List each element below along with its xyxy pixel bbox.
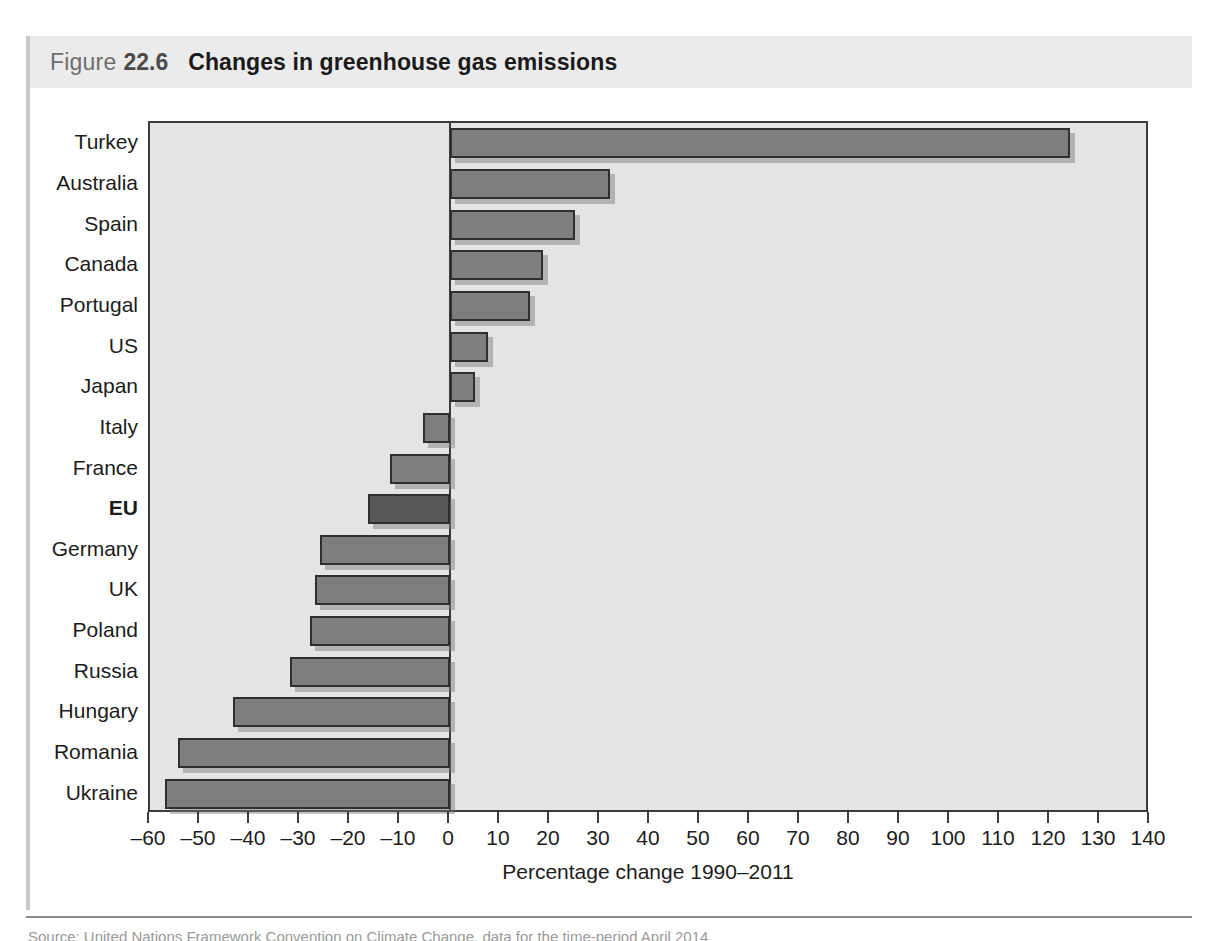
bar-australia bbox=[450, 169, 610, 199]
x-tick-label: 90 bbox=[886, 826, 909, 850]
category-label-portugal: Portugal bbox=[60, 294, 138, 315]
bar-spain bbox=[450, 210, 575, 240]
bar-france bbox=[390, 454, 450, 484]
category-label-canada: Canada bbox=[64, 253, 138, 274]
x-tick bbox=[547, 812, 549, 823]
x-tick-label: 100 bbox=[930, 826, 965, 850]
x-tick bbox=[747, 812, 749, 823]
x-tick bbox=[997, 812, 999, 823]
category-label-romania: Romania bbox=[54, 741, 138, 762]
x-tick bbox=[1147, 812, 1149, 823]
bar-romania bbox=[178, 738, 451, 768]
bar-uk bbox=[315, 575, 450, 605]
plot-box bbox=[148, 121, 1148, 812]
category-label-australia: Australia bbox=[56, 172, 138, 193]
x-tick bbox=[497, 812, 499, 823]
bar-eu bbox=[368, 494, 451, 524]
x-tick-label: –20 bbox=[330, 826, 365, 850]
bar-germany bbox=[320, 535, 450, 565]
x-tick-label: –60 bbox=[130, 826, 165, 850]
x-tick bbox=[847, 812, 849, 823]
x-tick-label: 20 bbox=[536, 826, 559, 850]
bar-hungary bbox=[233, 697, 451, 727]
category-label-france: France bbox=[73, 457, 138, 478]
bar-poland bbox=[310, 616, 450, 646]
bar-ukraine bbox=[165, 779, 450, 809]
category-label-turkey: Turkey bbox=[75, 131, 138, 152]
figure-label: Figure bbox=[50, 49, 116, 76]
x-tick-label: –50 bbox=[180, 826, 215, 850]
chart-area: TurkeyAustraliaSpainCanadaPortugalUSJapa… bbox=[26, 88, 1192, 910]
x-tick bbox=[947, 812, 949, 823]
x-tick-label: 140 bbox=[1130, 826, 1165, 850]
x-tick-label: –30 bbox=[280, 826, 315, 850]
x-axis-title: Percentage change 1990–2011 bbox=[148, 860, 1148, 884]
category-axis: TurkeyAustraliaSpainCanadaPortugalUSJapa… bbox=[26, 121, 138, 812]
category-label-spain: Spain bbox=[84, 213, 138, 234]
x-tick-label: –40 bbox=[230, 826, 265, 850]
bottom-divider bbox=[26, 916, 1192, 918]
source-note: Source: United Nations Framework Convent… bbox=[28, 928, 1128, 941]
category-label-poland: Poland bbox=[73, 619, 138, 640]
bar-turkey bbox=[450, 128, 1070, 158]
bar-japan bbox=[450, 372, 475, 402]
x-tick-label: 50 bbox=[686, 826, 709, 850]
x-tick bbox=[447, 812, 449, 823]
x-tick bbox=[597, 812, 599, 823]
category-label-uk: UK bbox=[109, 578, 138, 599]
x-tick-label: 110 bbox=[981, 826, 1014, 850]
x-tick bbox=[347, 812, 349, 823]
x-tick bbox=[197, 812, 199, 823]
x-tick-label: 40 bbox=[636, 826, 659, 850]
category-label-germany: Germany bbox=[52, 538, 138, 559]
x-tick bbox=[1047, 812, 1049, 823]
category-label-italy: Italy bbox=[99, 416, 138, 437]
x-tick-label: 130 bbox=[1080, 826, 1115, 850]
bar-russia bbox=[290, 657, 450, 687]
x-tick bbox=[397, 812, 399, 823]
bar-us bbox=[450, 332, 488, 362]
x-tick bbox=[247, 812, 249, 823]
bar-portugal bbox=[450, 291, 530, 321]
x-tick bbox=[147, 812, 149, 823]
category-label-eu: EU bbox=[109, 497, 138, 518]
figure-title: Changes in greenhouse gas emissions bbox=[188, 49, 617, 76]
bar-italy bbox=[423, 413, 451, 443]
x-tick-label: –10 bbox=[380, 826, 415, 850]
category-label-us: US bbox=[109, 335, 138, 356]
x-tick bbox=[1097, 812, 1099, 823]
category-label-hungary: Hungary bbox=[59, 700, 138, 721]
x-axis: –60–50–40–30–20–100102030405060708090100… bbox=[148, 812, 1148, 858]
x-tick bbox=[797, 812, 799, 823]
x-tick bbox=[297, 812, 299, 823]
x-tick-label: 120 bbox=[1030, 826, 1065, 850]
x-tick bbox=[647, 812, 649, 823]
figure-container: Figure 22.6 Changes in greenhouse gas em… bbox=[26, 36, 1192, 910]
x-tick-label: 0 bbox=[442, 826, 454, 850]
x-tick-label: 10 bbox=[486, 826, 509, 850]
x-tick-label: 80 bbox=[836, 826, 859, 850]
x-tick-label: 30 bbox=[586, 826, 609, 850]
figure-number: 22.6 bbox=[123, 49, 168, 76]
x-tick bbox=[897, 812, 899, 823]
x-tick-label: 70 bbox=[786, 826, 809, 850]
x-tick bbox=[697, 812, 699, 823]
category-label-russia: Russia bbox=[74, 660, 138, 681]
figure-header: Figure 22.6 Changes in greenhouse gas em… bbox=[30, 36, 1192, 88]
category-label-japan: Japan bbox=[81, 375, 138, 396]
bar-canada bbox=[450, 250, 543, 280]
x-tick-label: 60 bbox=[736, 826, 759, 850]
category-label-ukraine: Ukraine bbox=[66, 782, 138, 803]
